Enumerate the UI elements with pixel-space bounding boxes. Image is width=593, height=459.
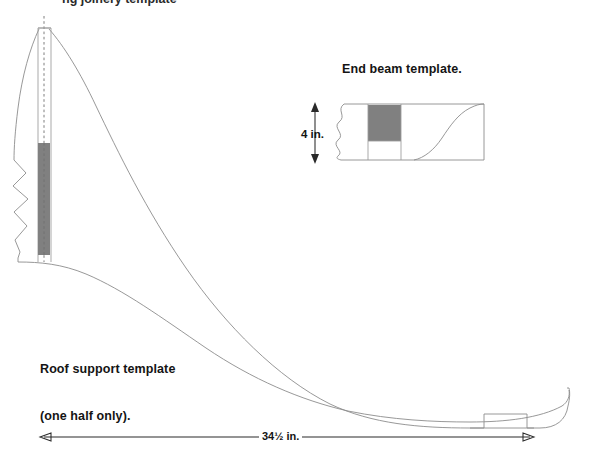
end-beam-break-line bbox=[336, 104, 344, 160]
end-beam-ogee-curve bbox=[414, 104, 484, 160]
roof-support-right-end bbox=[540, 388, 570, 428]
arrow-up-icon bbox=[311, 102, 319, 112]
roof-support-title-line1: Roof support template bbox=[40, 362, 175, 378]
roof-support-bottom-notch bbox=[470, 414, 540, 428]
roof-support-left-profile bbox=[14, 29, 39, 160]
overall-dimension-label: 34½ in. bbox=[259, 430, 302, 444]
end-beam-template bbox=[311, 102, 484, 164]
end-beam-shaded-block bbox=[368, 105, 401, 141]
drawing-sheet: ng joinery template bbox=[0, 0, 593, 459]
end-beam-dimension-label: 4 in. bbox=[301, 127, 324, 141]
roof-support-right-end-inner bbox=[470, 390, 569, 422]
roof-support-title: Roof support template (one half only). bbox=[40, 331, 175, 456]
arrow-down-icon bbox=[311, 154, 319, 164]
end-beam-title: End beam template. bbox=[342, 62, 462, 78]
roof-support-break-line bbox=[13, 160, 28, 258]
roof-support-title-line2: (one half only). bbox=[40, 409, 175, 425]
